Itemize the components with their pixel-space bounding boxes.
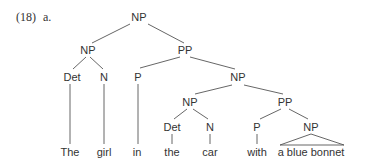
tree-edge-np0-pp1 xyxy=(148,24,184,43)
tree-edges xyxy=(70,24,308,144)
tree-nodes: NPNPPPDetNPNPNPPPDetNPNPThegirlinthecarw… xyxy=(61,11,345,158)
tree-node-np2: NP xyxy=(230,71,245,83)
tree-edge-np3-det2 xyxy=(174,109,187,119)
tree-edge-np0-np1 xyxy=(92,24,130,43)
tree-node-w3: in xyxy=(133,146,142,158)
tree-edge-pp2-np4 xyxy=(289,109,308,119)
tree-node-det1: Det xyxy=(63,71,80,83)
example-sublabel: a. xyxy=(43,10,51,24)
tree-node-det2: Det xyxy=(163,121,180,133)
tree-node-np3: NP xyxy=(182,96,197,108)
tree-edge-np1-det1 xyxy=(73,57,86,69)
tree-node-n1: N xyxy=(100,71,108,83)
tree-node-np1: NP xyxy=(80,44,95,56)
tree-node-w5: car xyxy=(202,146,218,158)
tree-node-p2: P xyxy=(253,121,260,133)
tree-node-w7: a blue bonnet xyxy=(278,146,345,158)
syntax-tree-diagram: (18) a. NPNPPPDetNPNPNPPPDetNPNPThegirli… xyxy=(0,0,366,163)
tree-edge-pp1-p1 xyxy=(140,57,180,68)
triangle-np4 xyxy=(280,134,344,145)
tree-edge-pp2-p2 xyxy=(260,109,281,119)
tree-node-np4: NP xyxy=(303,121,318,133)
np-triangle xyxy=(280,134,344,145)
tree-node-np0: NP xyxy=(131,11,146,23)
tree-edge-np1-n1 xyxy=(90,57,103,69)
tree-edge-np2-np3 xyxy=(195,85,232,94)
example-number: (18) xyxy=(16,10,36,24)
tree-node-pp1: PP xyxy=(178,44,193,56)
tree-node-pp2: PP xyxy=(278,96,293,108)
tree-node-w6: with xyxy=(246,146,267,158)
tree-node-n2: N xyxy=(206,121,214,133)
tree-node-p1: P xyxy=(134,71,141,83)
tree-edge-pp1-np2 xyxy=(190,57,235,69)
tree-edge-np2-pp2 xyxy=(244,85,283,94)
tree-node-w1: The xyxy=(61,146,80,158)
tree-edge-np3-n2 xyxy=(193,109,208,119)
tree-node-w2: girl xyxy=(97,146,112,158)
tree-node-w4: the xyxy=(164,146,179,158)
